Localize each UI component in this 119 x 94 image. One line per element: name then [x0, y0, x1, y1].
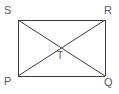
geometry-figure: S R P Q T — [0, 0, 119, 94]
rectangle-diagram-svg — [0, 0, 119, 94]
vertex-label-s: S — [4, 5, 11, 16]
vertex-label-q: Q — [104, 77, 113, 88]
vertex-label-p: P — [4, 76, 11, 87]
intersection-label-t: T — [57, 51, 63, 61]
vertex-label-r: R — [104, 5, 112, 16]
